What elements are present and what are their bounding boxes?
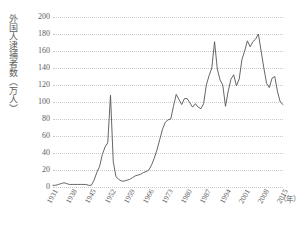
y-axis-tick-label: 80 xyxy=(24,115,50,123)
y-axis-tick-label: 120 xyxy=(24,81,50,89)
y-axis-tick-label: 140 xyxy=(24,64,50,72)
plot-area xyxy=(53,17,283,187)
y-axis-tick-label: 200 xyxy=(24,13,50,21)
data-line-series xyxy=(53,17,283,187)
x-axis-tick-label: 1959 xyxy=(122,188,136,205)
y-axis-tick-label: 100 xyxy=(24,98,50,106)
x-axis-tick-label: 1938 xyxy=(65,188,79,205)
x-axis-tick-label: 1980 xyxy=(180,188,194,205)
y-axis-tick-label: 0 xyxy=(24,183,50,191)
y-axis-tick-label: 40 xyxy=(24,149,50,157)
x-axis-unit-label: （年） xyxy=(279,196,299,204)
x-axis-tick-label: 2008 xyxy=(256,188,270,205)
x-axis-tick-labels: 1931193819451952195919661973198019871994… xyxy=(53,188,283,228)
x-axis-tick-label: 1952 xyxy=(103,188,117,205)
x-axis-tick-label: 2001 xyxy=(237,188,251,205)
x-axis-tick-label: 1994 xyxy=(218,188,232,205)
y-axis-tick-label: 20 xyxy=(24,166,50,174)
x-axis-tick-label: 1966 xyxy=(141,188,155,205)
y-axis-tick-labels: 200180160140120100806040200 xyxy=(22,17,50,187)
y-axis-tick-label: 180 xyxy=(24,30,50,38)
y-axis-tick-label: 160 xyxy=(24,47,50,55)
x-axis-tick-label: 1987 xyxy=(199,188,213,205)
y-axis-title: 外国人逮捕者数（万人） xyxy=(2,14,18,179)
line-chart: 外国人逮捕者数（万人） 200180160140120100806040200 … xyxy=(0,0,299,230)
x-axis-tick-label: 1973 xyxy=(161,188,175,205)
x-axis-tick-label: 1945 xyxy=(84,188,98,205)
y-axis-tick-label: 60 xyxy=(24,132,50,140)
